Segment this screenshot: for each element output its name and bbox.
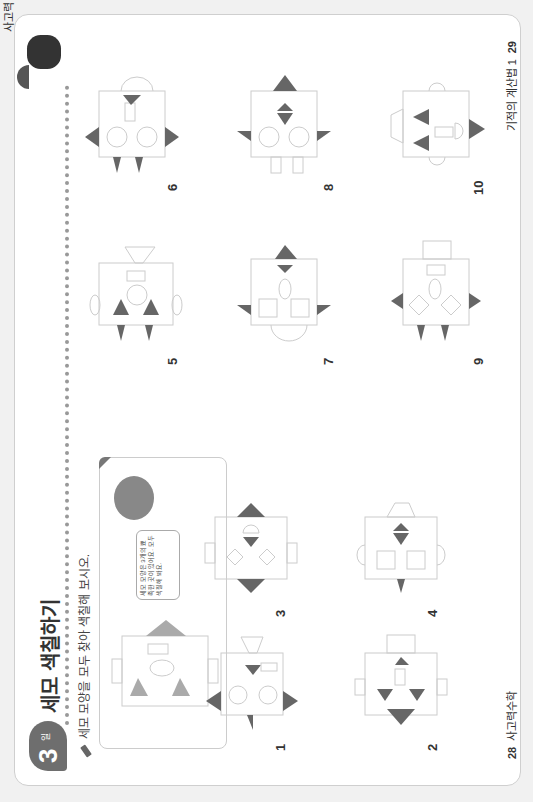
problem-8-figure[interactable]	[237, 67, 347, 177]
problem-5-figure[interactable]	[85, 235, 195, 345]
problem-7-figure[interactable]	[237, 235, 347, 345]
problem-number: 4	[425, 610, 440, 617]
instruction: 세모 모양을 모두 찾아 색칠해 보시오.	[75, 554, 92, 757]
speech-bubble: 세모 모양은 3개의 뾰족한 곳이 있어요. 모두 색칠해 봐요.	[136, 530, 180, 600]
problem-number: 6	[165, 184, 180, 191]
problem-4-figure[interactable]	[351, 489, 461, 599]
instruction-text: 세모 모양을 모두 찾아 색칠해 보시오.	[78, 554, 92, 739]
problem-number: 8	[321, 184, 336, 191]
footer-right: 기적의 계산법 129	[503, 41, 519, 131]
right-footer-label: 기적의 계산법 1	[506, 59, 518, 131]
umbrella-icon	[17, 65, 29, 89]
page-sheet: 3 일 세모 색칠하기 세모 모양을 모두 찾아 색칠해 보시오. 세모 모양은…	[14, 14, 521, 786]
page-title: 세모 색칠하기	[35, 599, 64, 713]
right-page-number: 29	[506, 41, 518, 53]
problem-number: 1	[273, 744, 288, 751]
problem-9-figure[interactable]	[389, 235, 499, 345]
problem-number: 3	[273, 610, 288, 617]
monster-mascot-icon	[114, 476, 154, 520]
mascot-icon	[27, 35, 61, 69]
problem-6-figure[interactable]	[85, 67, 195, 177]
problem-1-figure[interactable]	[201, 625, 311, 735]
unit-badge: 3 일	[29, 721, 67, 771]
left-footer-label: 사고력수학	[506, 691, 518, 741]
problem-2-figure[interactable]	[351, 625, 461, 735]
problem-10-figure[interactable]	[389, 67, 499, 177]
problem-number: 2	[425, 744, 440, 751]
problem-number: 7	[321, 358, 336, 365]
dotted-divider	[65, 85, 69, 725]
unit-number: 3	[33, 749, 64, 763]
corner-fold-icon	[99, 457, 111, 469]
problem-number: 5	[165, 358, 180, 365]
problem-number: 10	[471, 181, 486, 195]
pencil-icon	[80, 744, 92, 757]
footer-left: 28사고력수학	[503, 691, 519, 759]
left-page-number: 28	[506, 747, 518, 759]
unit-label: 일	[39, 733, 52, 741]
problem-number: 9	[471, 358, 486, 365]
edge-tab-text: 사고력	[0, 2, 16, 32]
problem-3-figure[interactable]	[201, 489, 311, 599]
workbook-spread: 3 일 세모 색칠하기 세모 모양을 모두 찾아 색칠해 보시오. 세모 모양은…	[0, 0, 533, 802]
